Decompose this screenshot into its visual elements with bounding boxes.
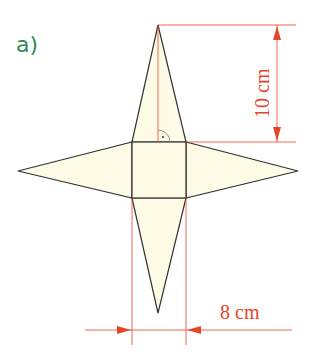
triangle-bottom — [132, 198, 186, 313]
triangle-top — [132, 25, 186, 142]
base-dimension-label: 8 cm — [220, 301, 260, 323]
arrow-left-icon — [187, 326, 201, 334]
pyramid-net-diagram: a) 10 cm 8 cm — [0, 0, 313, 357]
arrow-down-icon — [273, 127, 281, 141]
base-dimension — [85, 198, 292, 345]
arrow-right-icon — [117, 326, 131, 334]
arrow-up-icon — [273, 26, 281, 40]
figure-label: a) — [16, 32, 38, 57]
height-dimension-label: 10 cm — [251, 68, 273, 118]
triangle-left — [18, 142, 132, 198]
square-base — [132, 142, 186, 198]
triangle-right — [186, 142, 298, 198]
